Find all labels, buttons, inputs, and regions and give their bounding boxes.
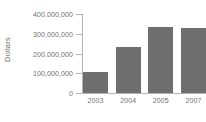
y-axis-tick-mark [76,14,83,15]
x-axis-tick-labels: 2003200420052007 [83,97,206,104]
y-axis-tick-label: 200,000,000 [33,50,73,57]
x-axis-tick-label: 2007 [181,97,206,104]
plot-area [76,14,206,94]
bar-slot [148,14,173,93]
y-axis-tick-mark [76,34,83,35]
y-axis-tick-mark [76,73,83,74]
y-axis-title-label: Dollars [3,37,12,62]
x-axis-tick-label: 2004 [116,97,141,104]
bar-2007[interactable] [181,28,206,93]
y-axis-title: Dollars [0,0,14,98]
y-axis-tick-label: 0 [69,90,73,97]
bar-slot [116,14,141,93]
bar-slot [181,14,206,93]
x-axis-tick-label: 2003 [83,97,108,104]
y-axis-tick-labels: 0100,000,000200,000,000300,000,000400,00… [14,0,76,98]
y-axis-tick-label: 400,000,000 [33,11,73,18]
y-axis-tick-mark [76,93,83,94]
y-axis-tick-label: 300,000,000 [33,30,73,37]
bars-container [83,14,206,93]
y-axis-tick-mark [76,54,83,55]
bar-2003[interactable] [83,72,108,93]
bar-2005[interactable] [148,27,173,93]
bar-slot [83,14,108,93]
y-axis-tick-label: 100,000,000 [33,70,73,77]
x-axis-line [76,93,206,94]
bar-2004[interactable] [116,47,141,93]
x-axis-tick-label: 2005 [148,97,173,104]
bar-chart: Dollars 0100,000,000200,000,000300,000,0… [0,0,206,122]
